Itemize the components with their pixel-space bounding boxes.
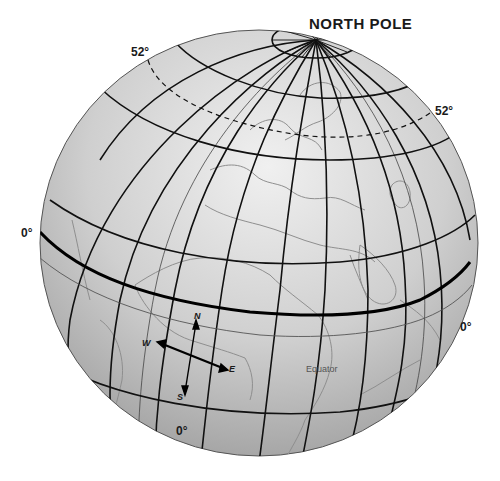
equator-right-label: 0° [460, 320, 471, 334]
equator-left-label: 0° [21, 226, 32, 240]
compass-west-label: W [142, 338, 151, 348]
latitude-52-left-label: 52° [131, 45, 149, 59]
globe-diagram [0, 0, 500, 481]
equator-name-label: Equator [306, 364, 338, 374]
meridian-bottom-label: 0° [176, 424, 187, 438]
compass-east-label: E [229, 364, 235, 374]
compass-north-label: N [194, 311, 201, 321]
compass-south-label: S [177, 392, 183, 402]
north-pole-label: NORTH POLE [309, 15, 412, 32]
latitude-52-right-label: 52° [435, 104, 453, 118]
